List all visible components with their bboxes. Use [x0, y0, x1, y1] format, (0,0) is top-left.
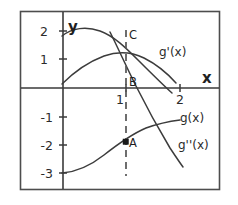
point-label-c: C — [129, 28, 137, 42]
point-a-marker — [123, 139, 129, 145]
function-graph-figure: 2 1 -1 -2 -3 1 2 y x g'(x) g(x) g''(x) A… — [0, 0, 238, 205]
x-tick-label-1: 1 — [116, 92, 124, 107]
point-label-b: B — [129, 75, 137, 89]
y-axis-label: y — [68, 18, 78, 36]
point-label-a: A — [129, 136, 137, 150]
x-axis-label: x — [202, 69, 212, 87]
y-tick-label-neg2: -2 — [41, 138, 53, 153]
y-tick-label-1: 1 — [40, 52, 48, 67]
graph-canvas: 2 1 -1 -2 -3 1 2 y x g'(x) g(x) g''(x) A… — [0, 0, 238, 205]
curve-label-g-double-prime: g''(x) — [178, 138, 209, 152]
curve-label-g: g(x) — [180, 111, 204, 125]
y-tick-label-neg1: -1 — [41, 110, 53, 125]
y-tick-label-neg3: -3 — [41, 166, 53, 181]
x-tick-label-2: 2 — [176, 92, 184, 107]
y-tick-label-2: 2 — [40, 24, 48, 39]
curve-label-g-prime: g'(x) — [159, 45, 186, 59]
